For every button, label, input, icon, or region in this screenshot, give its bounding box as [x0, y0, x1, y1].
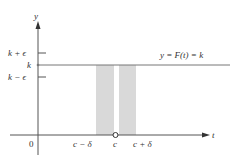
x-axis-arrow-icon — [202, 133, 210, 138]
constant-function-diagram: y t 0 k + ϵ k k − ϵ c − δ c c + δ y = F(… — [0, 0, 230, 167]
x-tick-label-c-minus-delta: c − δ — [73, 139, 93, 149]
x-tick-label-c: c — [113, 139, 117, 149]
right-neighborhood-shade — [119, 65, 136, 135]
x-tick-label-c-plus-delta: c + δ — [133, 139, 153, 149]
x-axis-label: t — [212, 130, 215, 140]
function-label: y = F(t) = k — [159, 50, 204, 60]
y-tick-label-k-minus-epsilon: k − ϵ — [8, 72, 27, 82]
y-axis-label: y — [33, 11, 38, 21]
origin-label: 0 — [29, 139, 34, 149]
y-tick-label-k: k — [27, 60, 32, 70]
k-intercept-dot — [37, 64, 40, 67]
left-neighborhood-shade — [96, 65, 114, 135]
y-tick-label-k-plus-epsilon: k + ϵ — [8, 48, 27, 58]
open-point-c — [113, 133, 118, 138]
y-axis-arrow-icon — [36, 21, 41, 29]
